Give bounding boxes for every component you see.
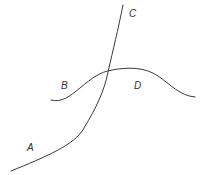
label-c: C: [129, 9, 136, 19]
label-a: A: [27, 143, 34, 153]
diagram-canvas: C B D A: [0, 0, 207, 175]
curve-b-to-d: [51, 68, 195, 101]
label-d: D: [134, 81, 141, 91]
label-b: B: [61, 81, 68, 91]
